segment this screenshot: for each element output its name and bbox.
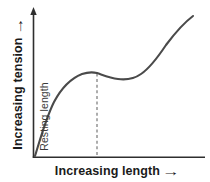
y-axis-arrowhead-icon	[30, 7, 36, 15]
y-axis-label-arrow-icon: →	[12, 18, 25, 36]
y-axis-label: Increasing tension →	[10, 10, 26, 160]
chart-plot-area	[0, 0, 210, 182]
x-axis-label: Increasing length →	[36, 163, 196, 179]
length-tension-curve	[35, 16, 193, 156]
resting-length-annotation: Resting length	[38, 67, 51, 167]
y-axis-label-text: Increasing tension	[11, 37, 25, 149]
length-tension-chart: Increasing tension → Increasing length →…	[0, 0, 210, 182]
x-axis-label-text: Increasing length	[55, 164, 160, 178]
x-axis-label-arrow-icon: →	[162, 165, 180, 178]
